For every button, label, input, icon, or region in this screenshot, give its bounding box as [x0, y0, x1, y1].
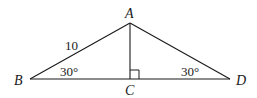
segment-ab [30, 23, 130, 79]
angle-d-label: 30° [181, 64, 199, 79]
point-c-label: C [125, 83, 135, 98]
right-angle-marker [130, 70, 139, 79]
point-b-label: B [14, 73, 23, 88]
side-ab-length: 10 [65, 38, 78, 53]
triangle-diagram: A B C D 10 30° 30° [0, 0, 257, 98]
point-a-label: A [124, 6, 134, 21]
angle-b-label: 30° [60, 64, 78, 79]
point-d-label: D [235, 73, 246, 88]
segment-ad [130, 23, 230, 79]
